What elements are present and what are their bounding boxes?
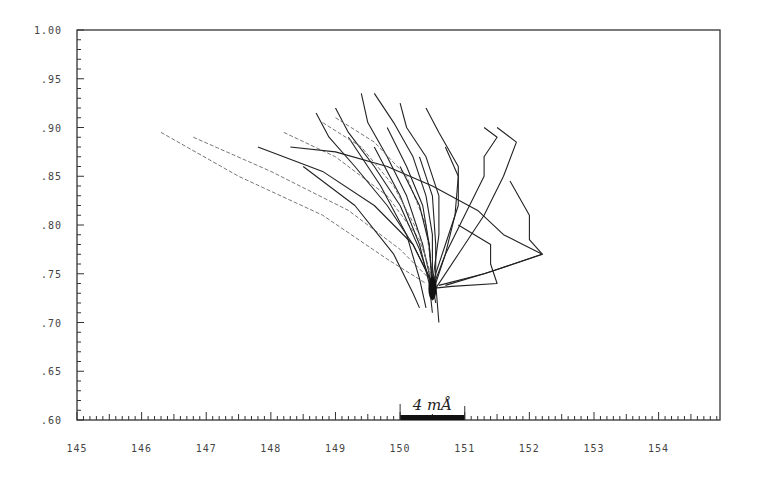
x-axis-labels: 145146147148149150151152153154 <box>66 443 669 454</box>
y-tick-label: .70 <box>41 318 62 329</box>
y-tick-label: .65 <box>41 366 62 377</box>
x-axis-ticks <box>77 412 717 420</box>
y-axis-labels: 1.00.95.90.85.80.75.70.65.60 <box>34 25 62 426</box>
y-tick-label: 1.00 <box>34 25 62 36</box>
y-axis-ticks <box>77 30 84 420</box>
x-tick-label: 147 <box>196 443 217 454</box>
trace-line <box>426 108 458 284</box>
y-tick-label: .60 <box>41 415 62 426</box>
y-tick-label: .95 <box>41 74 62 85</box>
x-tick-label: 149 <box>325 443 346 454</box>
trace-line <box>348 137 426 308</box>
scale-bar-annotation: 4 mÅ <box>400 396 465 420</box>
convergence-cluster <box>428 276 436 300</box>
x-tick-label: 152 <box>519 443 540 454</box>
x-tick-label: 151 <box>454 443 475 454</box>
y-tick-label: .90 <box>41 123 62 134</box>
trace-line <box>323 123 433 284</box>
x-tick-label: 145 <box>66 443 87 454</box>
chart: 1.00.95.90.85.80.75.70.65.60 14514614714… <box>0 0 758 478</box>
trace-line <box>193 137 429 278</box>
y-tick-label: .80 <box>41 220 62 231</box>
y-tick-label: .85 <box>41 171 62 182</box>
scale-bar <box>400 415 465 420</box>
trace-line <box>258 147 433 284</box>
trace-line <box>336 108 433 288</box>
plot-traces <box>161 93 542 322</box>
x-tick-label: 153 <box>583 443 604 454</box>
x-tick-label: 148 <box>260 443 281 454</box>
scale-bar-label: 4 mÅ <box>412 396 452 414</box>
x-tick-label: 154 <box>648 443 669 454</box>
y-tick-label: .75 <box>41 269 62 280</box>
x-tick-label: 146 <box>131 443 152 454</box>
plot-frame <box>77 30 720 420</box>
x-tick-label: 150 <box>390 443 411 454</box>
